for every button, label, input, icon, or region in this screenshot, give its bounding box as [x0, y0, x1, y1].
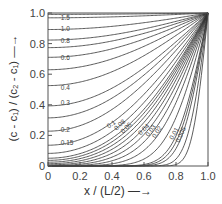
y-axis-label: (c - c₁) / (c₂ - c₁) —→	[7, 13, 19, 163]
x-tick-label: 0.8	[168, 170, 183, 182]
x-tick-label: 0.6	[136, 170, 151, 182]
y-tick-label: 0.2	[30, 129, 45, 141]
curve-0.2	[48, 13, 208, 131]
y-tick-label: 0.6	[30, 68, 45, 80]
curve-label: 0.4	[61, 84, 70, 91]
x-axis-label: x / (L/2) —→	[84, 184, 152, 198]
curve-label: 0.3	[61, 99, 70, 106]
diffusion-chart: 1.51.00.80.60.40.30.20.150.10.080.060.04…	[0, 0, 222, 204]
y-tick-label: 0.4	[30, 99, 45, 111]
curve-0.3	[48, 13, 208, 106]
curve-label: 1.5	[61, 14, 70, 21]
y-tick-label: 1.0	[30, 7, 45, 19]
y-tick-label: 0	[39, 160, 45, 172]
x-tick-label: 0.2	[72, 170, 87, 182]
y-tick-label: 0.8	[30, 38, 45, 50]
x-tick-label: 0.4	[104, 170, 119, 182]
x-tick-label: 0	[45, 170, 51, 182]
curve-label: 0.2	[61, 126, 70, 133]
curve-label: 1.0	[61, 25, 70, 32]
x-tick-label: 1.0	[200, 170, 215, 182]
curve-label: 0.8	[61, 37, 70, 44]
curve-label: 0.15	[61, 139, 74, 146]
curve-label: 0.6	[61, 54, 70, 61]
